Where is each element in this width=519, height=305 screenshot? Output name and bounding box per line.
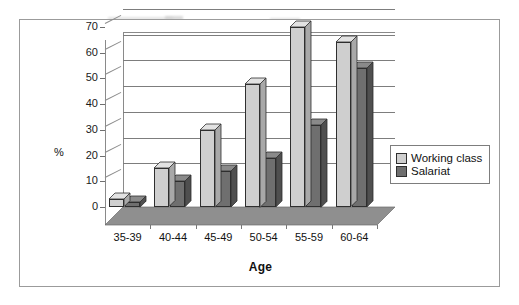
x-axis-tick [286, 225, 287, 229]
bar-3d-shading [109, 192, 131, 207]
chart-frame: 010203040506070 % 35-3940-4445-4950-5455… [19, 19, 500, 287]
gridline [123, 9, 395, 10]
bar-working-class-60-64 [336, 42, 351, 207]
x-axis-tick-label: 35-39 [105, 231, 151, 243]
x-axis-tick-label: 40-44 [150, 231, 196, 243]
bar-3d-shading [290, 20, 312, 207]
y-axis-title: % [54, 146, 64, 158]
chart-plot-area: 010203040506070 % 35-3940-4445-4950-5455… [20, 20, 501, 288]
x-axis-tick [377, 225, 378, 229]
bar-working-class-35-39 [109, 199, 124, 207]
x-axis-tick [241, 225, 242, 229]
gridline-connector [105, 92, 121, 101]
y-axis-tick-label: 60 [72, 47, 98, 58]
gridline-connector [105, 118, 121, 127]
bar-working-class-55-59 [290, 27, 305, 207]
bar-working-class-40-44 [154, 168, 169, 207]
y-axis-tick-labels: 010203040506070 [68, 20, 98, 288]
bar-3d-shading [154, 161, 176, 207]
back-wall-left-edge [123, 32, 124, 207]
y-axis-tick-label: 10 [72, 175, 98, 186]
legend-item-salariat: Salariat [396, 165, 482, 177]
bar-working-class-45-49 [200, 130, 215, 207]
x-axis-tick-label: 60-64 [331, 231, 377, 243]
legend-swatch-icon [396, 153, 407, 164]
x-axis-tick-label: 50-54 [241, 231, 287, 243]
y-axis-tick [100, 27, 105, 28]
legend-swatch-icon [396, 166, 407, 177]
y-axis-tick [100, 181, 105, 182]
x-axis-tick [196, 225, 197, 229]
chart-floor [105, 206, 395, 226]
chart-legend: Working classSalariat [390, 145, 490, 184]
x-axis-tick [332, 225, 333, 229]
y-axis-tick-label: 50 [72, 72, 98, 83]
y-axis-tick [100, 104, 105, 105]
gridline-connector [105, 143, 121, 152]
x-axis-tick-label: 45-49 [195, 231, 241, 243]
y-axis-tick-label: 0 [72, 201, 98, 212]
y-axis-tick [100, 156, 105, 157]
y-axis-tick-label: 30 [72, 124, 98, 135]
y-axis-tick-label: 20 [72, 150, 98, 161]
value-axis-line [105, 40, 106, 225]
y-axis-tick-label: 40 [72, 98, 98, 109]
gridline-connector [105, 66, 121, 75]
y-axis-tick [100, 53, 105, 54]
bar-working-class-50-54 [245, 84, 260, 207]
gridline-connector [105, 169, 121, 178]
legend-label: Salariat [411, 165, 450, 177]
bar-3d-shading [336, 35, 358, 207]
y-axis-tick [100, 78, 105, 79]
x-axis-tick [150, 225, 151, 229]
y-axis-tick-label: 70 [72, 21, 98, 32]
gridline-connector [105, 41, 121, 50]
y-axis-tick [100, 130, 105, 131]
x-axis-tick-label: 55-59 [286, 231, 332, 243]
legend-label: Working class [411, 152, 482, 164]
x-axis-title: Age [20, 260, 501, 274]
back-wall-top-edge [123, 32, 395, 33]
bar-3d-shading [200, 123, 222, 207]
bar-3d-shading [245, 77, 267, 207]
legend-item-working-class: Working class [396, 152, 482, 164]
